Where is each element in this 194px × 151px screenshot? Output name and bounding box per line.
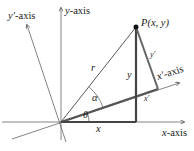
x-axis-label: x-axis (161, 127, 187, 138)
y-axis-label: y-axis (64, 5, 90, 16)
r-label: r (91, 62, 96, 73)
y-prime-axis-label: y′-axis (7, 10, 35, 21)
y-label: y (126, 69, 132, 80)
y-prime-label: y′ (149, 50, 156, 59)
rotation-diagram: y-axis y′-axis x-axis x′-axis P(x, y) r … (0, 0, 194, 151)
point-label: P(x, y) (140, 17, 169, 29)
x-label: x (95, 123, 101, 134)
x-prime-axis-label: x′-axis (154, 63, 184, 82)
x-prime-label: x′ (143, 94, 150, 103)
r-line (61, 27, 136, 122)
theta-label: θ (83, 109, 88, 120)
y-prime-axis-line (27, 25, 66, 142)
point-p (134, 25, 139, 30)
alpha-label: α (92, 92, 98, 103)
